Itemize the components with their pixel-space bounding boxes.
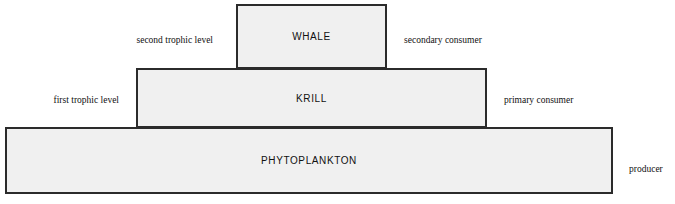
pyramid-tier-phytoplankton: PHYTOPLANKTON bbox=[5, 127, 613, 194]
pyramid-tier-krill: KRILL bbox=[136, 68, 487, 128]
consumer-role-label-primary: primary consumer bbox=[504, 96, 573, 106]
pyramid-tier-phytoplankton-label: PHYTOPLANKTON bbox=[261, 155, 357, 166]
trophic-level-label-second: second trophic level bbox=[136, 36, 213, 46]
producer-role-label: producer bbox=[629, 165, 663, 175]
consumer-role-label-secondary: secondary consumer bbox=[404, 36, 482, 46]
ecological-pyramid-diagram: WHALE second trophic level secondary con… bbox=[0, 0, 675, 204]
trophic-level-label-first: first trophic level bbox=[54, 96, 119, 106]
pyramid-tier-whale: WHALE bbox=[236, 4, 387, 69]
pyramid-tier-whale-label: WHALE bbox=[292, 31, 331, 42]
pyramid-tier-krill-label: KRILL bbox=[296, 93, 327, 104]
